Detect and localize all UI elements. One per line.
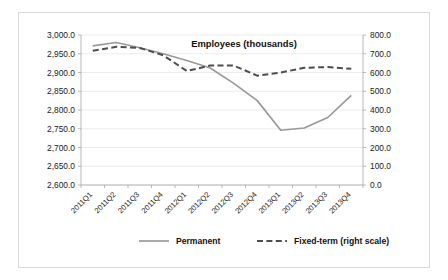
series-line-2 bbox=[93, 47, 352, 76]
left-axis-tick-label: 2,850.0 bbox=[47, 86, 75, 96]
left-axis-tick-label: 3,000.0 bbox=[47, 30, 75, 40]
right-axis-tick-label: 300.0 bbox=[370, 124, 391, 134]
x-axis-tick-label: 2012Q4 bbox=[233, 190, 258, 215]
left-axis-tick-label: 2,600.0 bbox=[47, 180, 75, 190]
x-axis-tick-label: 2013Q3 bbox=[304, 190, 329, 215]
x-axis-tick-label: 2011Q2 bbox=[93, 190, 118, 215]
legend-label-1[interactable]: Permanent bbox=[176, 236, 221, 246]
chart-title: Employees (thousands) bbox=[191, 38, 297, 49]
right-axis-tick-label: 800.0 bbox=[370, 30, 391, 40]
right-axis-tick-label: 100.0 bbox=[370, 161, 391, 171]
left-axis-tick-label: 2,800.0 bbox=[47, 105, 75, 115]
line-chart: 2,600.00.02,650.0100.02,700.0200.02,750.… bbox=[19, 13, 431, 269]
left-axis-tick-label: 2,950.0 bbox=[47, 49, 75, 59]
right-axis-tick-label: 0.0 bbox=[370, 180, 382, 190]
series-line-1 bbox=[93, 43, 352, 131]
chart-plot-area: 2,600.00.02,650.0100.02,700.0200.02,750.… bbox=[19, 13, 431, 269]
x-axis-tick-label: 2013Q2 bbox=[280, 190, 305, 215]
left-axis-tick-label: 2,900.0 bbox=[47, 68, 75, 78]
chart-card: 2,600.00.02,650.0100.02,700.0200.02,750.… bbox=[18, 12, 430, 268]
x-axis-tick-label: 2012Q1 bbox=[163, 190, 188, 215]
x-axis-tick-label: 2011Q3 bbox=[116, 190, 141, 215]
left-axis-tick-label: 2,650.0 bbox=[47, 161, 75, 171]
x-axis-tick-label: 2013Q1 bbox=[257, 190, 282, 215]
right-axis-tick-label: 400.0 bbox=[370, 105, 391, 115]
right-axis-tick-label: 500.0 bbox=[370, 86, 391, 96]
legend-label-2[interactable]: Fixed-term (right scale) bbox=[294, 236, 389, 246]
x-axis-tick-label: 2011Q4 bbox=[140, 190, 165, 215]
right-axis-tick-label: 700.0 bbox=[370, 49, 391, 59]
right-axis-tick-label: 200.0 bbox=[370, 143, 391, 153]
x-axis-tick-label: 2012Q2 bbox=[186, 190, 211, 215]
left-axis-tick-label: 2,750.0 bbox=[47, 124, 75, 134]
x-axis-tick-label: 2012Q3 bbox=[210, 190, 235, 215]
left-axis-tick-label: 2,700.0 bbox=[47, 143, 75, 153]
x-axis-tick-label: 2013Q4 bbox=[327, 190, 352, 215]
right-axis-tick-label: 600.0 bbox=[370, 68, 391, 78]
x-axis-tick-label: 2011Q1 bbox=[69, 190, 94, 215]
